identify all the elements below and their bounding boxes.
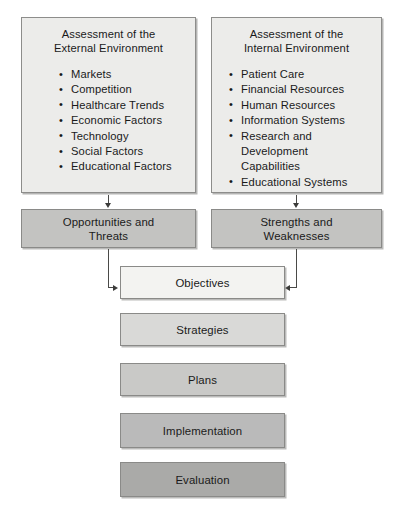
- arrow-down-icon: [105, 203, 111, 208]
- cascade-box-evaluation: Evaluation: [120, 462, 285, 497]
- cascade-box-implementation: Implementation: [120, 413, 285, 448]
- assessment-list-external: Markets Competition Healthcare Trends Ec…: [22, 67, 195, 175]
- diagram-canvas: Assessment of the External Environment M…: [0, 0, 400, 509]
- list-item: Healthcare Trends: [58, 98, 195, 113]
- list-item-text: Research and Development: [241, 130, 312, 157]
- assessment-box-internal: Assessment of the Internal Environment P…: [211, 17, 382, 193]
- arrow-left-icon: [285, 285, 290, 291]
- list-item: Financial Resources: [228, 82, 381, 97]
- cascade-box-strategies: Strategies: [120, 313, 285, 346]
- list-item: Educational Factors: [58, 159, 195, 174]
- assessment-title-internal: Assessment of the Internal Environment: [212, 18, 381, 55]
- list-item: Information Systems: [228, 113, 381, 128]
- list-item: Economic Factors: [58, 113, 195, 128]
- connector-opportunities-to-objectives: [108, 249, 109, 288]
- list-item: Markets: [58, 67, 195, 82]
- outcome-box-opportunities: Opportunities and Threats: [21, 209, 196, 248]
- assessment-list-internal: Patient Care Financial Resources Human R…: [212, 67, 381, 190]
- list-item: Technology: [58, 129, 195, 144]
- connector-strengths-to-objectives: [296, 249, 297, 288]
- list-item: Research and Development Capabilities: [228, 129, 381, 175]
- list-item: Educational Systems: [228, 175, 381, 190]
- cascade-box-plans: Plans: [120, 363, 285, 396]
- arrow-down-icon: [293, 203, 299, 208]
- assessment-box-external: Assessment of the External Environment M…: [21, 17, 196, 193]
- cascade-box-objectives: Objectives: [120, 266, 285, 299]
- list-item: Patient Care: [228, 67, 381, 82]
- arrow-right-icon: [113, 285, 118, 291]
- outcome-box-strengths: Strengths and Weaknesses: [211, 209, 382, 248]
- assessment-title-external: Assessment of the External Environment: [22, 18, 195, 55]
- list-item-continuation: Capabilities: [241, 159, 381, 174]
- list-item: Social Factors: [58, 144, 195, 159]
- list-item: Competition: [58, 82, 195, 97]
- list-item: Human Resources: [228, 98, 381, 113]
